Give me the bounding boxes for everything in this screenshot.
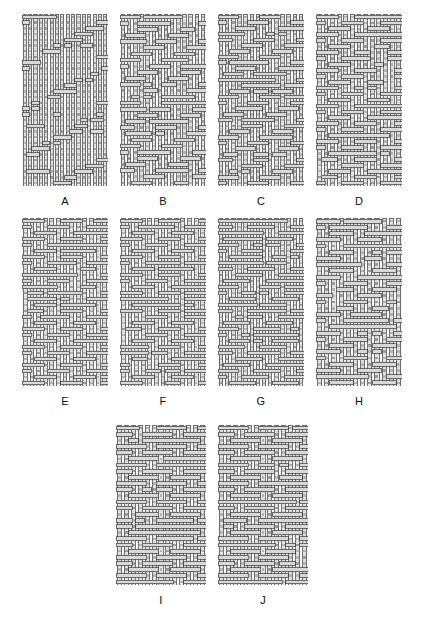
panel-E: E	[22, 218, 108, 407]
panel-C: C	[218, 14, 304, 207]
panel-label-G: G	[257, 395, 266, 407]
weave-diagram-C	[218, 14, 304, 186]
panel-label-H: H	[355, 395, 363, 407]
weave-diagram-J	[218, 425, 308, 585]
panel-label-J: J	[260, 594, 266, 606]
panel-label-E: E	[61, 395, 69, 407]
weave-diagram-H	[316, 218, 402, 386]
weave-diagram-D	[316, 14, 402, 186]
panel-label-B: B	[159, 195, 167, 207]
panel-row-2: E F G H	[0, 218, 424, 407]
weave-diagram-B	[120, 14, 206, 186]
weave-diagram-E	[22, 218, 108, 386]
panel-label-I: I	[159, 594, 162, 606]
figure-root: A B C D E F G H	[0, 0, 424, 636]
panel-label-D: D	[355, 195, 363, 207]
weave-diagram-I	[116, 425, 206, 585]
panel-I: I	[116, 425, 206, 606]
weave-diagram-G	[218, 218, 304, 386]
panel-F: F	[120, 218, 206, 407]
panel-G: G	[218, 218, 304, 407]
panel-B: B	[120, 14, 206, 207]
weave-diagram-A	[22, 14, 108, 186]
panel-label-A: A	[61, 195, 69, 207]
panel-label-F: F	[160, 395, 167, 407]
panel-A: A	[22, 14, 108, 207]
weave-diagram-F	[120, 218, 206, 386]
panel-row-1: A B C D	[0, 14, 424, 207]
panel-H: H	[316, 218, 402, 407]
panel-J: J	[218, 425, 308, 606]
panel-row-3: I J	[0, 425, 424, 606]
panel-D: D	[316, 14, 402, 207]
panel-label-C: C	[257, 195, 265, 207]
